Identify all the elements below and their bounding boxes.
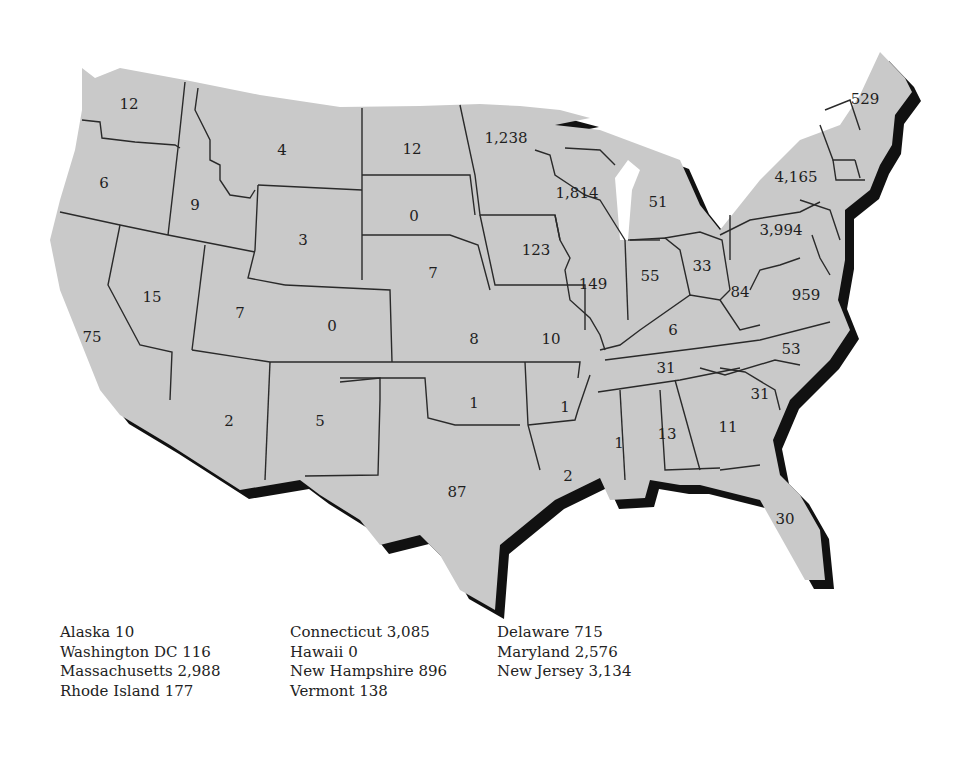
state-label-sc: 31 — [750, 387, 769, 402]
state-label-wy: 3 — [298, 233, 308, 248]
state-label-co: 0 — [327, 319, 337, 334]
legend-column-1: Alaska 10 Washington DC 116 Massachusett… — [60, 623, 220, 701]
state-label-pa: 3,994 — [760, 223, 803, 238]
legend-item-maryland: Maryland 2,576 — [497, 643, 631, 663]
state-label-al: 13 — [657, 427, 676, 442]
legend-item-vermont: Vermont 138 — [290, 682, 447, 702]
state-label-me: 529 — [851, 92, 880, 107]
legend-column-2: Connecticut 3,085 Hawaii 0 New Hampshire… — [290, 623, 447, 701]
state-label-mo: 10 — [541, 332, 560, 347]
state-label-mn: 1,238 — [485, 131, 528, 146]
state-label-wa: 12 — [119, 97, 138, 112]
state-label-tx: 87 — [447, 485, 466, 500]
state-label-nv: 15 — [142, 290, 161, 305]
state-label-ms: 1 — [614, 436, 624, 451]
state-label-az: 2 — [224, 414, 234, 429]
legend-item-new-jersey: New Jersey 3,134 — [497, 662, 631, 682]
state-label-in: 55 — [640, 269, 659, 284]
state-label-tn: 31 — [656, 361, 675, 376]
us-map: 12675915437025120781871,23812310121,8141… — [0, 0, 966, 620]
state-label-ar: 1 — [560, 400, 570, 415]
legend-item-alaska: Alaska 10 — [60, 623, 220, 643]
state-label-ks: 8 — [469, 332, 479, 347]
state-label-or: 6 — [99, 176, 109, 191]
state-label-ia: 123 — [522, 243, 551, 258]
legend-item-connecticut: Connecticut 3,085 — [290, 623, 447, 643]
state-label-ga: 11 — [718, 420, 737, 435]
state-label-la: 2 — [563, 469, 573, 484]
state-label-nd: 12 — [402, 142, 421, 157]
state-label-ut: 7 — [235, 306, 245, 321]
state-label-va: 959 — [792, 288, 821, 303]
state-label-mt: 4 — [277, 143, 287, 158]
state-label-ky: 6 — [668, 323, 678, 338]
state-label-nm: 5 — [315, 414, 325, 429]
state-label-wv: 84 — [730, 285, 749, 300]
state-label-fl: 30 — [775, 512, 794, 527]
state-label-mi: 51 — [648, 195, 667, 210]
legend-column-3: Delaware 715 Maryland 2,576 New Jersey 3… — [497, 623, 631, 682]
state-label-il: 149 — [579, 277, 608, 292]
legend-item-rhode-island: Rhode Island 177 — [60, 682, 220, 702]
legend-item-delaware: Delaware 715 — [497, 623, 631, 643]
state-label-wi: 1,814 — [556, 186, 599, 201]
state-label-nc: 53 — [781, 342, 800, 357]
state-label-ok: 1 — [469, 396, 479, 411]
legend-item-massachusetts: Massachusetts 2,988 — [60, 662, 220, 682]
us-map-graphic — [0, 0, 966, 620]
state-label-ca: 75 — [82, 330, 101, 345]
state-label-oh: 33 — [692, 259, 711, 274]
state-label-ne: 7 — [428, 266, 438, 281]
legend-item-washington-dc: Washington DC 116 — [60, 643, 220, 663]
state-label-sd: 0 — [409, 209, 419, 224]
legend-item-new-hampshire: New Hampshire 896 — [290, 662, 447, 682]
state-label-id: 9 — [190, 198, 200, 213]
legend-item-hawaii: Hawaii 0 — [290, 643, 447, 663]
state-label-ny: 4,165 — [775, 170, 818, 185]
